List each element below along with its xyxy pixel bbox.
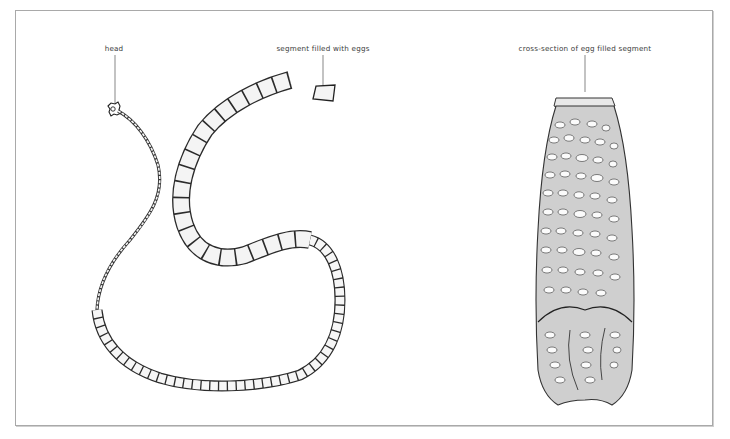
tapeworm-body-upper: [181, 80, 310, 257]
scolex-head-icon: [108, 102, 121, 116]
leader-lines: [115, 55, 585, 104]
cross-section-segment: [536, 98, 634, 405]
gravid-segment: [313, 85, 335, 101]
tapeworm-illustration: [0, 0, 730, 439]
